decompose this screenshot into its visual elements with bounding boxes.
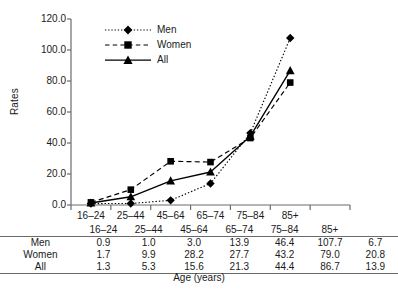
legend-item-women: Women	[104, 37, 216, 52]
series-all	[87, 66, 295, 207]
table-column-header: 16–24	[81, 224, 126, 237]
y-axis-tick-label: 80.0	[22, 76, 66, 86]
table-cell: 6.7	[353, 237, 398, 250]
triangle-marker-icon	[104, 53, 152, 67]
chart-legend: Men Women All	[104, 22, 216, 67]
legend-item-men: Men	[104, 22, 216, 37]
chart-figure: 0.020.040.060.080.0100.0120.0 Rates Men …	[0, 0, 398, 294]
y-axis-tick-labels: 0.020.040.060.080.0100.0120.0	[22, 0, 66, 210]
table-cell: 46.4	[262, 237, 307, 250]
table-column-header: 85+	[307, 224, 352, 237]
x-axis-category-label: 65–74	[191, 210, 231, 222]
y-axis-tick-label: 60.0	[22, 107, 66, 117]
data-point-square	[167, 158, 174, 165]
data-point-diamond	[166, 196, 174, 204]
y-axis-tick-label: 100.0	[22, 45, 66, 55]
table-column-header: 75–84	[262, 224, 307, 237]
y-axis-tick-label: 40.0	[22, 138, 66, 148]
y-axis-tick-label: 0.0	[22, 200, 66, 210]
table-column-header: 25–44	[126, 224, 171, 237]
legend-item-all: All	[104, 52, 216, 67]
series-women	[88, 79, 294, 205]
x-axis-category-label: 25–44	[111, 210, 151, 222]
square-marker-icon	[104, 38, 152, 52]
y-axis-tick-label: 20.0	[22, 169, 66, 179]
table-cell: 28.2	[171, 249, 216, 261]
y-axis-title: Rates	[9, 72, 20, 132]
table-corner-cell	[0, 224, 81, 237]
table-cell: 20.8	[353, 249, 398, 261]
x-axis-category-label: 45–64	[151, 210, 191, 222]
table-cell: 79.0	[307, 249, 352, 261]
data-point-diamond	[206, 179, 214, 187]
legend-label-men: Men	[152, 25, 176, 35]
data-point-diamond	[286, 34, 294, 42]
x-axis-category-label: 75–84	[230, 210, 270, 222]
table-row-label: Men	[0, 237, 81, 250]
table-cell: 1.0	[126, 237, 171, 250]
diamond-marker-icon	[104, 23, 152, 37]
table-row: Men0.91.03.013.946.4107.76.7	[0, 237, 398, 250]
table-cell: 27.7	[217, 249, 262, 261]
table-row-label: Women	[0, 249, 81, 261]
data-point-square	[127, 186, 134, 193]
table-cell: 13.9	[217, 237, 262, 250]
table-column-header: 65–74	[217, 224, 262, 237]
y-axis-tick-label: 120.0	[22, 14, 66, 24]
data-point-square	[207, 159, 214, 166]
plot-area: 0.020.040.060.080.0100.0120.0 Rates Men …	[0, 0, 398, 210]
table-cell: 107.7	[307, 237, 352, 250]
legend-label-all: All	[152, 55, 168, 65]
table-row: Women1.79.928.227.743.279.020.8	[0, 249, 398, 261]
x-axis-category-label: 85+	[270, 210, 310, 222]
series-line	[91, 71, 290, 203]
series-line	[91, 83, 290, 203]
table-cell: 9.9	[126, 249, 171, 261]
table-cell: 3.0	[171, 237, 216, 250]
table-column-header	[353, 224, 398, 237]
data-table: 16–2425–4445–6465–7475–8485+Men0.91.03.0…	[0, 224, 398, 274]
data-point-diamond	[127, 199, 135, 207]
table-cell: 0.9	[81, 237, 126, 250]
data-point-triangle	[286, 66, 295, 74]
data-point-square	[287, 79, 294, 86]
x-axis-title: Age (years)	[0, 272, 398, 284]
table-cell: 43.2	[262, 249, 307, 261]
table-header-row: 16–2425–4445–6465–7475–8485+	[0, 224, 398, 237]
legend-label-women: Women	[152, 40, 191, 50]
table-column-header: 45–64	[171, 224, 216, 237]
x-axis-category-label: 16–24	[71, 210, 111, 222]
table-cell: 1.7	[81, 249, 126, 261]
